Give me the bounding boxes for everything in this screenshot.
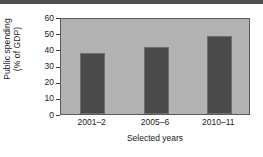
bar-chart-figure: Public spending (% of GDP) 0102030405060… (0, 0, 263, 157)
bar (207, 36, 232, 114)
y-axis-tick-label: 30 (38, 62, 54, 71)
y-axis-title-line-1: Public spending (2, 1, 12, 97)
x-axis-title: Selected years (60, 133, 250, 143)
x-axis-tick-label: 2010–11 (190, 118, 246, 127)
y-axis-tick-label: 20 (38, 78, 54, 87)
y-axis-title-line-2: (% of GDP) (12, 1, 22, 97)
y-axis-tick-label: 60 (38, 14, 54, 23)
bars-container (61, 19, 249, 114)
y-axis-tick-label: 40 (38, 46, 54, 55)
x-axis-tick-labels: 2001–22005–62010–11 (60, 118, 250, 131)
y-axis-tick-mark (56, 115, 60, 116)
x-axis-tick-label: 2005–6 (127, 118, 183, 127)
y-axis-tick-label: 50 (38, 30, 54, 39)
y-axis-tick-labels: 0102030405060 (36, 0, 54, 157)
bar (80, 53, 105, 114)
y-axis-tick-label: 0 (38, 111, 54, 120)
y-axis-tick-label: 10 (38, 94, 54, 103)
y-axis-title: Public spending (% of GDP) (2, 1, 32, 97)
plot-area (60, 18, 250, 115)
x-axis-tick-label: 2001–2 (64, 118, 120, 127)
bar (144, 47, 169, 114)
